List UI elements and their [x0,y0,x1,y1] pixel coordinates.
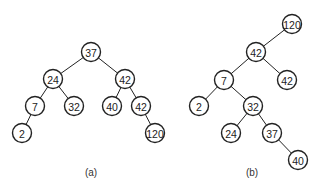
tree-node: 40 [103,97,122,116]
node-label: 24 [47,74,59,86]
tree-node: 42 [247,43,266,62]
tree-node: 32 [244,97,263,116]
node-label: 24 [225,128,237,140]
tree-node: 2 [13,124,32,143]
tree-node: 37 [82,43,101,62]
tree-node: 120 [283,15,302,34]
node-label: 40 [292,155,304,167]
tree-node: 7 [215,71,234,90]
node-label: 37 [85,47,97,59]
node-label: 42 [135,101,147,113]
node-label: 40 [106,101,118,113]
captions-layer: (a)(b) [85,167,258,178]
node-label: 42 [119,74,131,86]
tree-node: 42 [278,71,297,90]
node-label: 2 [196,101,202,113]
node-label: 120 [283,19,301,31]
tree-node: 7 [26,97,45,116]
tree-diagram: 3724427324042212012042742232243740 (a)(b… [0,0,318,189]
node-label: 7 [221,75,227,87]
tree-node: 120 [146,124,165,143]
tree-node: 40 [289,151,308,170]
tree-node: 37 [263,124,282,143]
tree-node: 24 [222,124,241,143]
tree-node: 42 [132,97,151,116]
node-label: 42 [281,75,293,87]
tree-caption: (b) [246,167,258,178]
node-label: 2 [19,128,25,140]
node-label: 42 [250,47,262,59]
tree-node: 24 [44,70,63,89]
tree-caption: (a) [85,167,97,178]
tree-node: 32 [65,97,84,116]
node-label: 120 [146,128,164,140]
node-label: 37 [266,128,278,140]
node-label: 32 [68,101,80,113]
node-label: 32 [247,101,259,113]
tree-node: 2 [190,97,209,116]
nodes-layer: 3724427324042212012042742232243740 [13,15,308,170]
node-label: 7 [32,101,38,113]
tree-node: 42 [116,70,135,89]
